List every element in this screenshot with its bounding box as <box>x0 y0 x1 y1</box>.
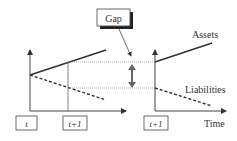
gap-double-arrow-icon <box>128 64 136 88</box>
svg-text:t+1: t+1 <box>68 119 81 129</box>
assets-line-right <box>155 43 212 62</box>
svg-text:t+1: t+1 <box>149 119 162 129</box>
time-axis-label: Time <box>204 118 225 129</box>
time-marker-t-plus-1-right: t+1 <box>144 116 168 130</box>
gap-diagram: Gap Assets Liabilities Time t t+1 t+1 <box>0 0 237 141</box>
left-panel <box>30 50 126 111</box>
time-marker-t-plus-1-left: t+1 <box>63 116 87 130</box>
right-panel <box>155 43 226 111</box>
assets-label: Assets <box>192 29 218 40</box>
liabilities-label: Liabilities <box>185 84 226 95</box>
gap-label: Gap <box>105 13 122 24</box>
time-marker-t: t <box>16 116 37 130</box>
gap-callout: Gap <box>97 9 133 56</box>
gap-pointer-arrow <box>119 29 131 56</box>
